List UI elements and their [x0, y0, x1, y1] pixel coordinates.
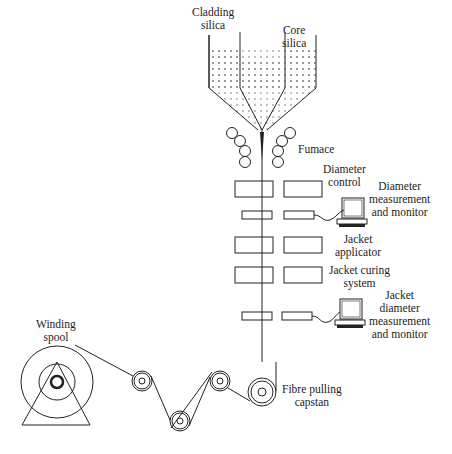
diameter-gauge	[242, 210, 344, 220]
jacket-applicator	[235, 237, 322, 253]
winding-spool	[21, 346, 93, 425]
jacket-monitor-icon	[335, 299, 365, 328]
diameter-monitor-icon	[337, 198, 367, 227]
neck-down-region	[260, 132, 264, 160]
label-jacket-applicator: Jacket applicator	[335, 233, 381, 259]
label-core-silica: Core silica	[282, 24, 306, 50]
label-diameter-control: Diameter control	[323, 163, 366, 189]
label-jacket-curing-system: Jacket curing system	[329, 264, 390, 290]
label-furnace: Fumace	[298, 143, 334, 156]
diameter-control-unit	[235, 181, 322, 197]
label-cladding-silica: Cladding silica	[192, 6, 234, 32]
guide-pulleys	[132, 371, 230, 431]
jacket-diameter-gauge	[242, 312, 340, 322]
jacket-curing-oven	[235, 267, 322, 283]
label-jacket-diameter-measurement: Jacket diameter measurement and monitor	[369, 289, 430, 341]
label-diameter-measurement: Diameter measurement and monitor	[369, 180, 430, 219]
label-fibre-pulling-capstan: Fibre pulling capstan	[282, 383, 342, 409]
label-winding-spool: Winding spool	[36, 318, 76, 344]
capstan	[248, 378, 276, 406]
fibre-drawing-diagram	[0, 0, 452, 454]
